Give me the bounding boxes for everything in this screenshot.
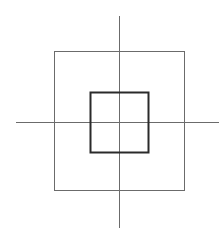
diagram-canvas bbox=[0, 0, 220, 233]
